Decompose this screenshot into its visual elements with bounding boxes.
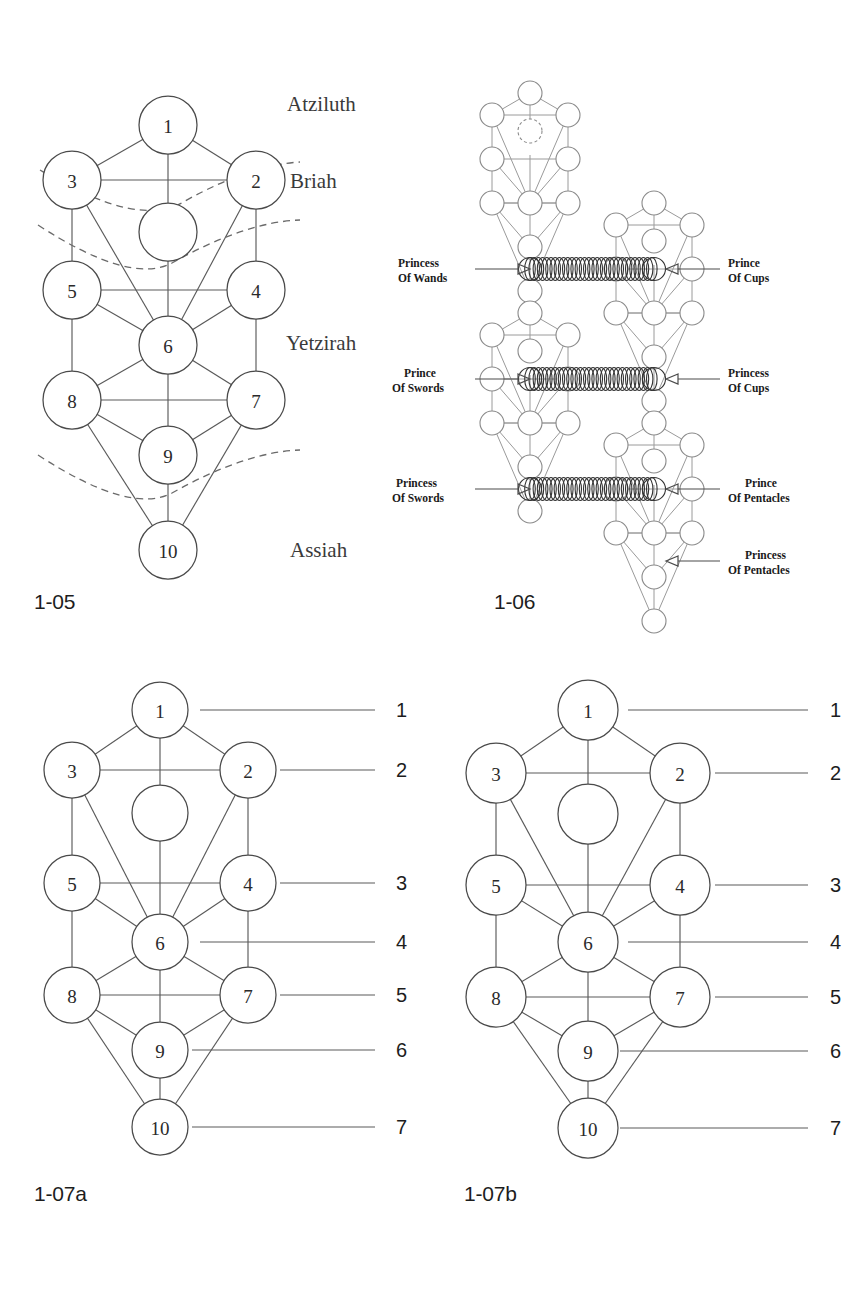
level-number-1: 1 [396,699,407,721]
level-number-7: 7 [396,1116,407,1138]
figure-1-07b-caption: 1-07b [464,1182,517,1206]
level-number-3: 3 [396,872,407,894]
label-princess-of-wands-line1: Princess [398,257,439,269]
figure-1-05: 1 3 2 5 4 6 8 7 9 10 Atziluth Briah Yetz… [0,60,400,580]
tree-nodes: 1 3 2 5 4 6 8 7 9 10 [43,96,285,579]
node-5-label: 5 [491,876,501,897]
node-1-label: 1 [163,116,173,137]
node-6-label: 6 [155,933,165,954]
label-princess-of-pentacles-line1: Princess [745,549,786,561]
label-princess-of-cups-line2: Of Cups [728,382,770,395]
figure-1-07b: 1 3 2 5 4 6 8 7 9 10 1 2 3 4 5 [430,665,861,1165]
node-7-label: 7 [243,986,253,1007]
figure-1-07a-svg: 1 3 2 5 4 6 8 7 9 10 1 2 3 4 5 [0,665,430,1165]
world-label-atziluth: Atziluth [287,92,356,116]
node-3-label: 3 [67,171,77,192]
figure-1-06: Princess Of Wands Prince Of Swords Princ… [380,60,861,580]
node-10-label: 10 [159,541,178,562]
level-number-4: 4 [396,931,407,953]
label-princess-of-swords-line2: Of Swords [392,492,445,504]
node-8-label: 8 [491,988,501,1009]
figure-1-07b-svg: 1 3 2 5 4 6 8 7 9 10 1 2 3 4 5 [430,665,861,1165]
node-daath [558,784,618,844]
node-daath-dashed [518,119,542,143]
figure-1-07a: 1 3 2 5 4 6 8 7 9 10 1 2 3 4 5 [0,665,430,1165]
level-number-2: 2 [396,759,407,781]
label-prince-of-swords-line2: Of Swords [392,382,445,394]
node-3-label: 3 [67,761,77,782]
node-7-label: 7 [675,988,685,1009]
node-7-label: 7 [251,391,261,412]
node-daath-4 [642,449,666,473]
level-number-6: 6 [396,1039,407,1061]
node-2-label: 2 [251,171,261,192]
node-5-label: 5 [67,874,77,895]
node-2-label: 2 [675,764,685,785]
figure-1-06-caption: 1-06 [494,590,535,614]
label-prince-of-pentacles-line1: Prince [745,477,777,489]
node-4-label: 4 [243,874,253,895]
level-number-5: 5 [830,986,841,1008]
world-label-yetzirah: Yetzirah [286,331,357,355]
label-prince-of-cups-line2: Of Cups [728,272,770,285]
level-number-5: 5 [396,984,407,1006]
label-prince-of-cups-line1: Prince [728,257,760,269]
level-number-4: 4 [830,931,841,953]
world-label-assiah: Assiah [290,538,348,562]
figure-1-05-svg: 1 3 2 5 4 6 8 7 9 10 Atziluth Briah Yetz… [0,60,400,580]
label-princess-of-swords-line1: Princess [396,477,437,489]
node-daath [132,785,188,841]
node-8-label: 8 [67,986,77,1007]
node-daath [139,203,197,261]
node-9-label: 9 [155,1041,165,1062]
level-number-6: 6 [830,1040,841,1062]
node-5-label: 5 [67,281,77,302]
level-number-3: 3 [830,874,841,896]
node-4-label: 4 [675,876,685,897]
level-number-7: 7 [830,1117,841,1139]
level-numbers: 1 2 3 4 5 6 7 [830,699,841,1139]
level-numbers: 1 2 3 4 5 6 7 [396,699,407,1138]
node-daath-3 [518,339,542,363]
node-6-label: 6 [163,336,173,357]
node-9-label: 9 [163,446,173,467]
node-8-label: 8 [67,391,77,412]
label-prince-of-swords-line1: Prince [404,367,436,379]
node-1-label: 1 [155,701,165,722]
figure-1-07a-caption: 1-07a [34,1182,87,1206]
world-label-briah: Briah [290,169,337,193]
label-princess-of-wands-line2: Of Wands [398,272,448,284]
figure-1-05-caption: 1-05 [34,590,75,614]
node-6-label: 6 [583,933,593,954]
label-prince-of-pentacles-line2: Of Pentacles [728,492,790,504]
tree-assiah [604,411,704,633]
node-10-label: 10 [579,1119,598,1140]
node-3-label: 3 [491,764,501,785]
node-2-label: 2 [243,761,253,782]
node-1-label: 1 [583,701,593,722]
label-princess-of-pentacles-line2: Of Pentacles [728,564,790,576]
figure-1-06-svg: Princess Of Wands Prince Of Swords Princ… [380,60,861,580]
label-princess-of-cups-line1: Princess [728,367,769,379]
level-number-2: 2 [830,762,841,784]
node-9-label: 9 [583,1042,593,1063]
node-10-label: 10 [151,1118,170,1139]
level-number-1: 1 [830,699,841,721]
node-daath-2 [642,229,666,253]
node-4-label: 4 [251,281,261,302]
level-leader-lines [192,710,375,1127]
